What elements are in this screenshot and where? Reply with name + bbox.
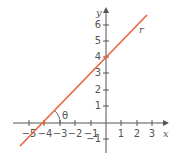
svg-text:−2: −2 [68,128,83,139]
svg-text:−3: −3 [53,128,68,139]
svg-text:3: 3 [149,128,155,139]
y-tick-labels: 6 5 4 3 2 1 −1 [86,19,101,144]
line-r-label: r [139,24,145,35]
svg-text:1: 1 [95,100,101,111]
x-axis-label: x [163,128,169,139]
svg-text:6: 6 [95,19,101,30]
svg-text:2: 2 [95,84,101,95]
svg-text:−1: −1 [86,133,101,144]
y-intercept-point [104,55,108,59]
svg-text:2: 2 [134,128,140,139]
svg-text:5: 5 [95,35,101,46]
coordinate-plane: −5 −4 −3 −2 −1 1 2 3 6 5 4 3 2 1 −1 x y … [0,0,179,164]
svg-text:−4: −4 [38,128,53,139]
y-axis-label: y [95,7,102,18]
angle-theta-label: θ [62,110,68,121]
svg-text:4: 4 [95,51,101,62]
x-intercept-point [43,122,46,125]
line-r [20,15,147,146]
svg-text:1: 1 [118,128,124,139]
angle-arc [55,111,60,123]
